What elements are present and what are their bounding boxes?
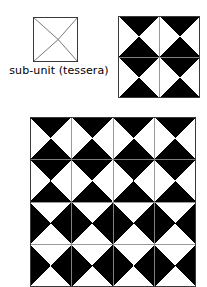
small-tessera-pattern [118, 16, 200, 98]
figure-root: sub-unit (tessera) [0, 0, 207, 287]
tessera-cell [30, 117, 72, 160]
tessera-cell [118, 16, 159, 57]
tessera-cell [30, 160, 72, 203]
tessera-cell [159, 57, 200, 98]
tessera-cell [113, 160, 155, 203]
tessera-key-caption: sub-unit (tessera) [0, 64, 118, 77]
tessera-cell [159, 16, 200, 57]
tessera-cell [155, 117, 197, 160]
small-pattern-canvas [118, 16, 200, 98]
tessera-cell [72, 117, 114, 160]
tessera-key-fill [33, 17, 78, 62]
tessera-outline-icon [33, 17, 78, 62]
tessera-cell [155, 160, 197, 203]
tessera-cell [113, 245, 155, 287]
tessera-cell [30, 202, 72, 245]
tessera-cell [72, 160, 114, 203]
large-pattern-canvas [30, 117, 196, 287]
tessera-cell [155, 202, 197, 245]
tessera-cell [30, 245, 72, 287]
tessera-key-shape [33, 17, 78, 62]
tessera-cell [72, 202, 114, 245]
large-tessera-pattern [30, 117, 196, 287]
tessera-cell [113, 202, 155, 245]
tessera-cell [155, 245, 197, 287]
tessera-cell [72, 245, 114, 287]
tessera-cell [113, 117, 155, 160]
tessera-cell [118, 57, 159, 98]
